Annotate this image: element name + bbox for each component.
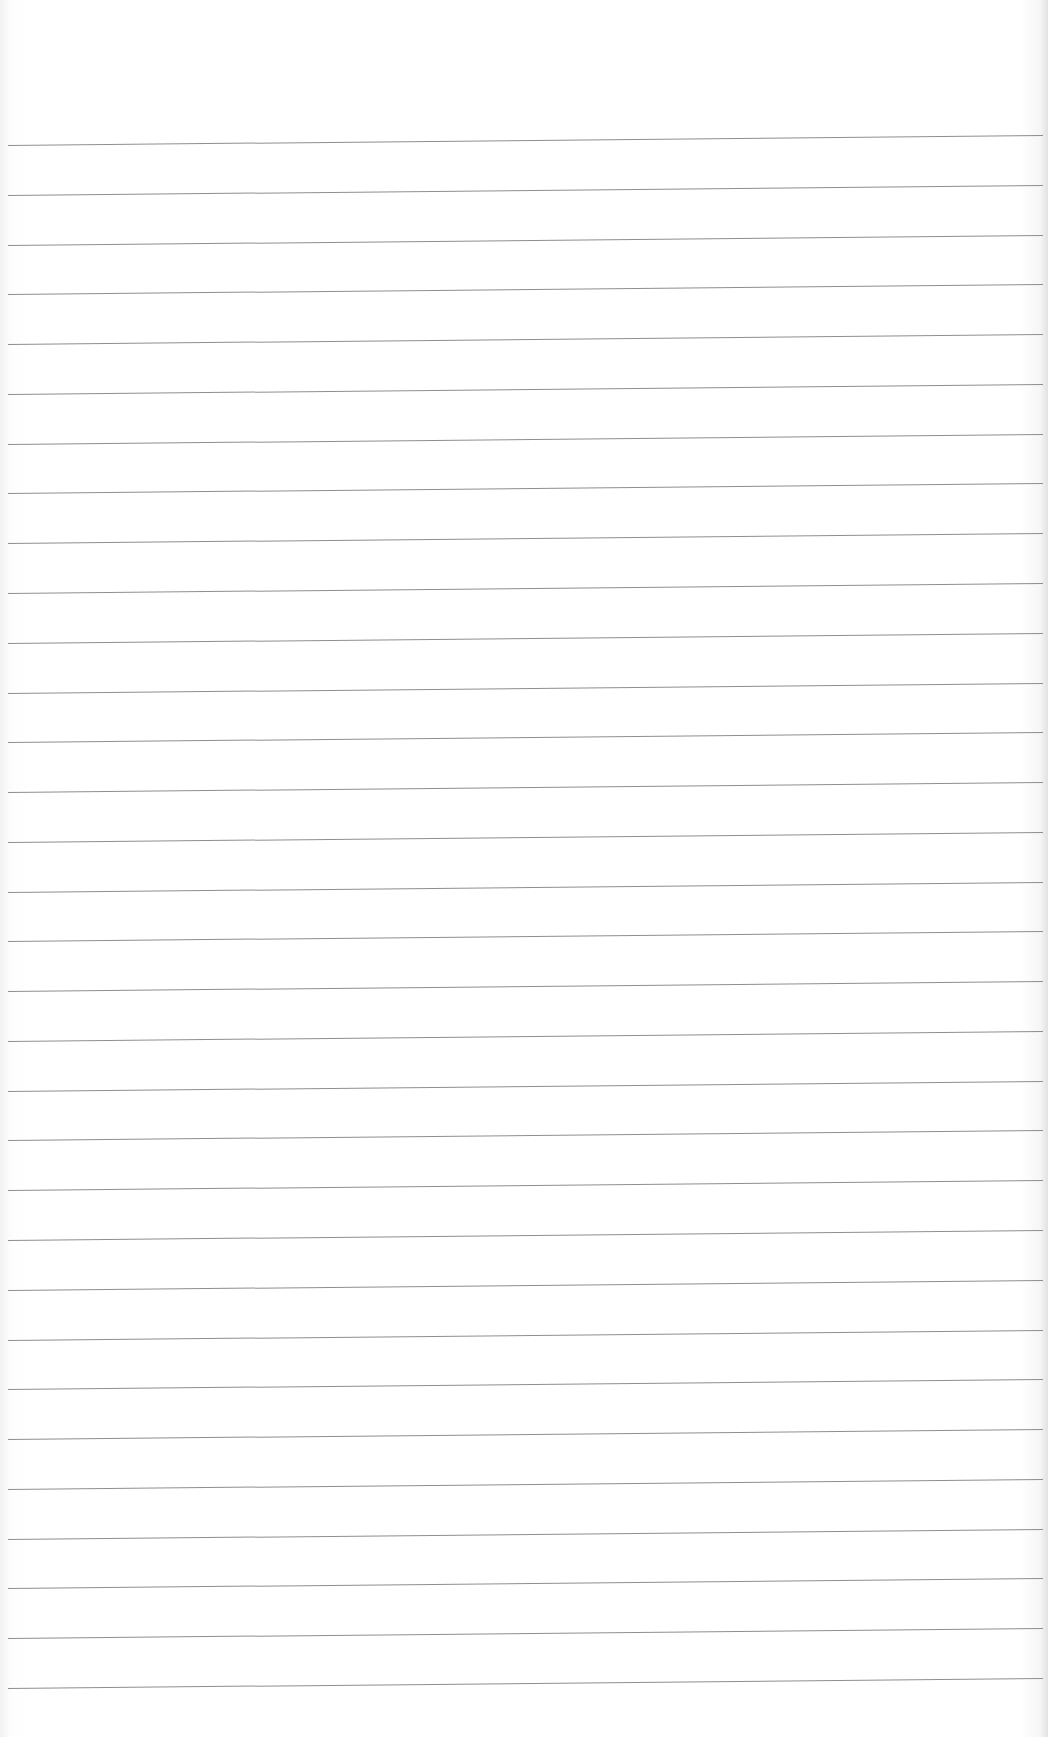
ruled-line bbox=[8, 1379, 1043, 1390]
ruled-line bbox=[8, 483, 1043, 494]
ruled-line bbox=[8, 1180, 1043, 1191]
ruled-line bbox=[8, 1678, 1043, 1689]
ruled-line bbox=[8, 1330, 1043, 1341]
page-edge-shadow bbox=[1040, 0, 1048, 1737]
ruled-line bbox=[8, 931, 1043, 942]
ruled-line bbox=[8, 1529, 1043, 1540]
ruled-line bbox=[8, 384, 1043, 395]
ruled-line bbox=[8, 1131, 1043, 1142]
ruled-line bbox=[8, 583, 1043, 594]
ruled-line bbox=[8, 185, 1043, 196]
ruled-line bbox=[8, 782, 1043, 793]
ruled-line bbox=[8, 1081, 1043, 1092]
ruled-line bbox=[8, 1479, 1043, 1490]
ruled-line bbox=[8, 1628, 1043, 1639]
ruled-paper-sheet bbox=[0, 0, 1048, 1737]
ruled-line bbox=[8, 235, 1043, 246]
ruled-line bbox=[8, 981, 1043, 992]
ruled-line bbox=[8, 533, 1043, 544]
ruled-line bbox=[8, 633, 1043, 644]
ruled-line bbox=[8, 135, 1043, 146]
ruled-line bbox=[8, 1579, 1043, 1590]
ruled-line bbox=[8, 1280, 1043, 1291]
ruled-line bbox=[8, 683, 1043, 694]
ruled-line bbox=[8, 284, 1043, 295]
ruled-line bbox=[8, 732, 1043, 743]
ruled-line bbox=[8, 1429, 1043, 1440]
ruled-line bbox=[8, 832, 1043, 843]
ruled-line bbox=[8, 882, 1043, 893]
ruled-line bbox=[8, 434, 1043, 445]
ruled-line bbox=[8, 1230, 1043, 1241]
ruled-line bbox=[8, 1031, 1043, 1042]
ruled-lines bbox=[0, 0, 1048, 1737]
ruled-line bbox=[8, 334, 1043, 345]
